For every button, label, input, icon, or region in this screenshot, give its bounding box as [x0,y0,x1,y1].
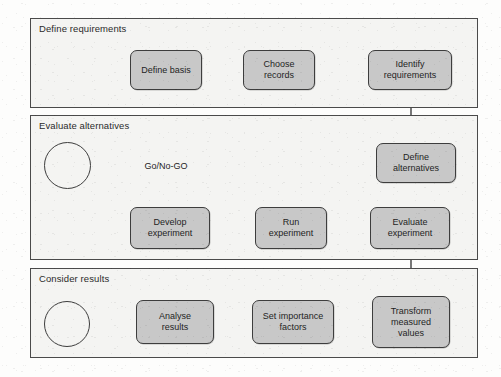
node-analyse-results[interactable]: Analyseresults [136,300,214,344]
section-title-evaluate-alternatives: Evaluate alternatives [39,120,129,131]
diagram-page: Define requirements Evaluate alternative… [0,0,501,377]
node-choose-records[interactable]: Chooserecords [243,50,315,90]
node-end-circle-results[interactable] [44,301,90,347]
section-title-define-requirements: Define requirements [39,23,126,34]
node-set-importance-factors[interactable]: Set importancefactors [252,300,334,344]
node-develop-experiment[interactable]: Developexperiment [130,207,210,249]
node-transform-measured-values[interactable]: Transformmeasuredvalues [372,296,450,348]
node-go-no-go[interactable]: Go/No-GO [118,140,214,192]
section-title-consider-results: Consider results [39,273,109,284]
node-identify-requirements[interactable]: Identifyrequirements [368,50,452,90]
node-end-circle-evaluate[interactable] [44,142,91,189]
node-define-basis[interactable]: Define basis [130,50,202,90]
node-define-alternatives[interactable]: Definealternatives [376,143,456,183]
node-evaluate-experiment[interactable]: Evaluateexperiment [370,207,450,249]
decision-label-go-no-go: Go/No-GO [118,161,214,171]
node-run-experiment[interactable]: Runexperiment [255,207,327,249]
